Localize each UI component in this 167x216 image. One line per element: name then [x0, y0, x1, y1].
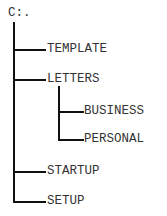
tree-node-letters: LETTERS — [47, 72, 100, 86]
branch-line-template — [13, 49, 46, 51]
tree-node-personal: PERSONAL — [84, 132, 144, 146]
branch-line-letters — [13, 79, 46, 81]
tree-node-template: TEMPLATE — [47, 42, 107, 56]
tree-root: C:. — [8, 6, 31, 20]
branch-line-personal — [58, 139, 84, 141]
branch-line-startup — [13, 171, 46, 173]
tree-node-business: BUSINESS — [84, 104, 144, 118]
tree-node-setup: SETUP — [47, 194, 85, 208]
branch-line-setup — [13, 201, 46, 203]
letters-trunk-line — [58, 86, 60, 141]
tree-node-startup: STARTUP — [47, 164, 100, 178]
branch-line-business — [58, 111, 84, 113]
